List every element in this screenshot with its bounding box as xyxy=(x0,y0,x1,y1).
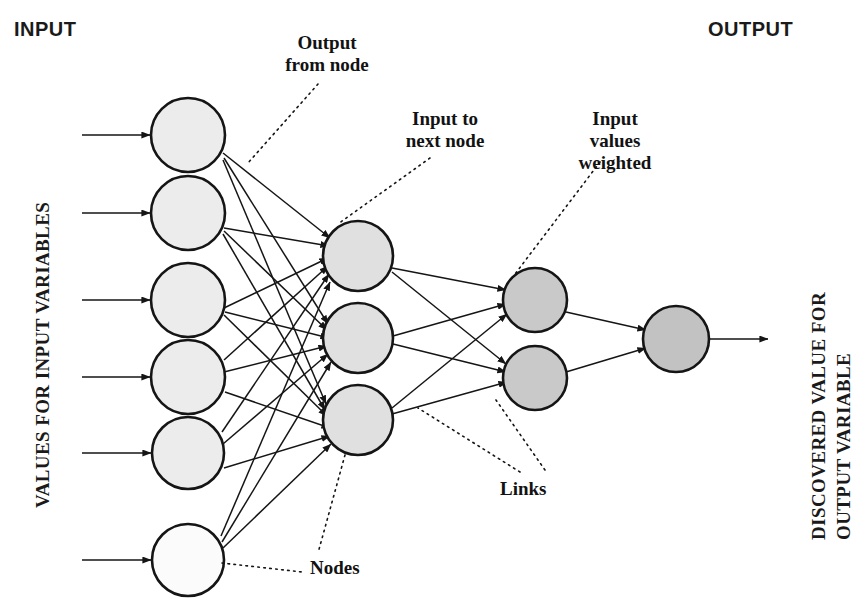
hidden-node-1 xyxy=(323,221,393,291)
side-label-output-line1: DISCOVERED VALUE FOR xyxy=(806,292,831,540)
input-node-4 xyxy=(151,340,225,414)
header-output: OUTPUT xyxy=(708,18,793,41)
weighted-node-2 xyxy=(503,346,567,410)
leader-input-to-next-node xyxy=(338,158,430,224)
weighted-layer-nodes xyxy=(503,268,567,410)
annotation-input-values-weighted: Input values weighted xyxy=(560,108,670,174)
side-label-output-line2: OUTPUT VARIABLE xyxy=(831,292,856,540)
links-weighted-to-output xyxy=(566,312,646,372)
input-layer-nodes xyxy=(151,98,225,596)
input-node-3 xyxy=(151,263,225,337)
annotation-nodes: Nodes xyxy=(310,557,360,579)
side-label-output-variable: DISCOVERED VALUE FOR OUTPUT VARIABLE xyxy=(806,292,856,540)
side-label-input-variables: VALUES FOR INPUT VARIABLES xyxy=(32,202,54,508)
hidden-node-3 xyxy=(323,385,393,455)
network-canvas xyxy=(0,0,864,612)
annotation-links: Links xyxy=(500,478,546,500)
input-node-2 xyxy=(151,176,225,250)
links-input-to-hidden xyxy=(221,153,331,548)
annotation-input-to-next-node: Input to next node xyxy=(382,108,508,152)
leader-nodes-hidden xyxy=(318,455,345,553)
links-hidden-to-weighted xyxy=(392,268,507,414)
input-node-5 xyxy=(152,417,224,489)
hidden-layer-nodes xyxy=(323,221,393,455)
output-node-1 xyxy=(643,306,709,372)
annotation-output-from-node: Output from node xyxy=(262,32,392,76)
input-node-6 xyxy=(152,524,224,596)
leader-input-values-weighted xyxy=(512,162,600,278)
leader-nodes-input xyxy=(222,563,302,572)
leader-links-a xyxy=(418,408,520,472)
header-input: INPUT xyxy=(14,18,77,41)
neural-network-diagram: INPUT OUTPUT VALUES FOR INPUT VARIABLES … xyxy=(0,0,864,612)
leader-output-from-node xyxy=(248,84,318,163)
hidden-node-2 xyxy=(323,303,393,373)
input-node-1 xyxy=(151,98,225,172)
input-arrows xyxy=(82,135,151,560)
output-layer-nodes xyxy=(643,306,709,372)
